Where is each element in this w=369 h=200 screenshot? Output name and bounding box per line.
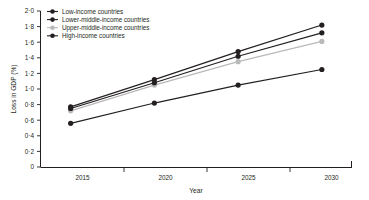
- y-axis-title: Loss in GDP (%): [10, 65, 18, 114]
- y-tick-label: 1·8: [25, 23, 35, 30]
- legend-marker-icon: [50, 17, 55, 22]
- y-tick-label: 1·0: [25, 85, 35, 92]
- y-tick-label: 0·6: [25, 117, 35, 124]
- y-tick-label: 1·6: [25, 39, 35, 46]
- legend-label: Low-income countries: [62, 8, 123, 15]
- legend-label: Lower-middle-income countries: [62, 16, 150, 23]
- x-tick-label: 2025: [241, 174, 256, 181]
- gdp-loss-line-chart: 2·0 1·8 1·6 1·4 1·2 1·0 0·8 0·6 0·4 0·2 …: [0, 0, 369, 200]
- data-point: [152, 100, 157, 105]
- legend-item-lower-middle-income: Lower-middle-income countries: [47, 16, 150, 23]
- legend-item-upper-middle-income: Upper-middle-income countries: [47, 24, 150, 32]
- data-point: [236, 49, 241, 54]
- legend-marker-icon: [50, 9, 55, 14]
- x-tick-label: 2015: [75, 174, 90, 181]
- x-tick-label: 2030: [324, 174, 339, 181]
- data-point: [236, 54, 241, 59]
- data-point: [236, 59, 241, 64]
- data-point: [319, 30, 324, 35]
- data-point: [152, 77, 157, 82]
- legend-label: High-income countries: [62, 32, 125, 40]
- data-point: [319, 39, 324, 44]
- legend-marker-icon: [50, 34, 55, 39]
- data-point: [319, 22, 324, 27]
- legend-label: Upper-middle-income countries: [62, 24, 150, 32]
- y-tick-label: 0·4: [25, 132, 35, 139]
- data-point: [236, 83, 241, 88]
- data-point: [319, 67, 324, 72]
- y-tick-label: 1·2: [25, 70, 35, 77]
- y-tick-label: 0: [30, 163, 34, 170]
- x-tick-label: 2020: [158, 174, 173, 181]
- data-point: [68, 104, 73, 109]
- y-tick-label: 2·0: [25, 7, 35, 14]
- y-tick-label: 0·8: [25, 101, 35, 108]
- legend-marker-icon: [50, 25, 55, 30]
- data-point: [68, 121, 73, 126]
- y-tick-label: 0·2: [25, 148, 35, 155]
- chart-background: [0, 0, 369, 200]
- y-tick-label: 1·4: [25, 54, 35, 61]
- x-axis-title: Year: [189, 187, 203, 194]
